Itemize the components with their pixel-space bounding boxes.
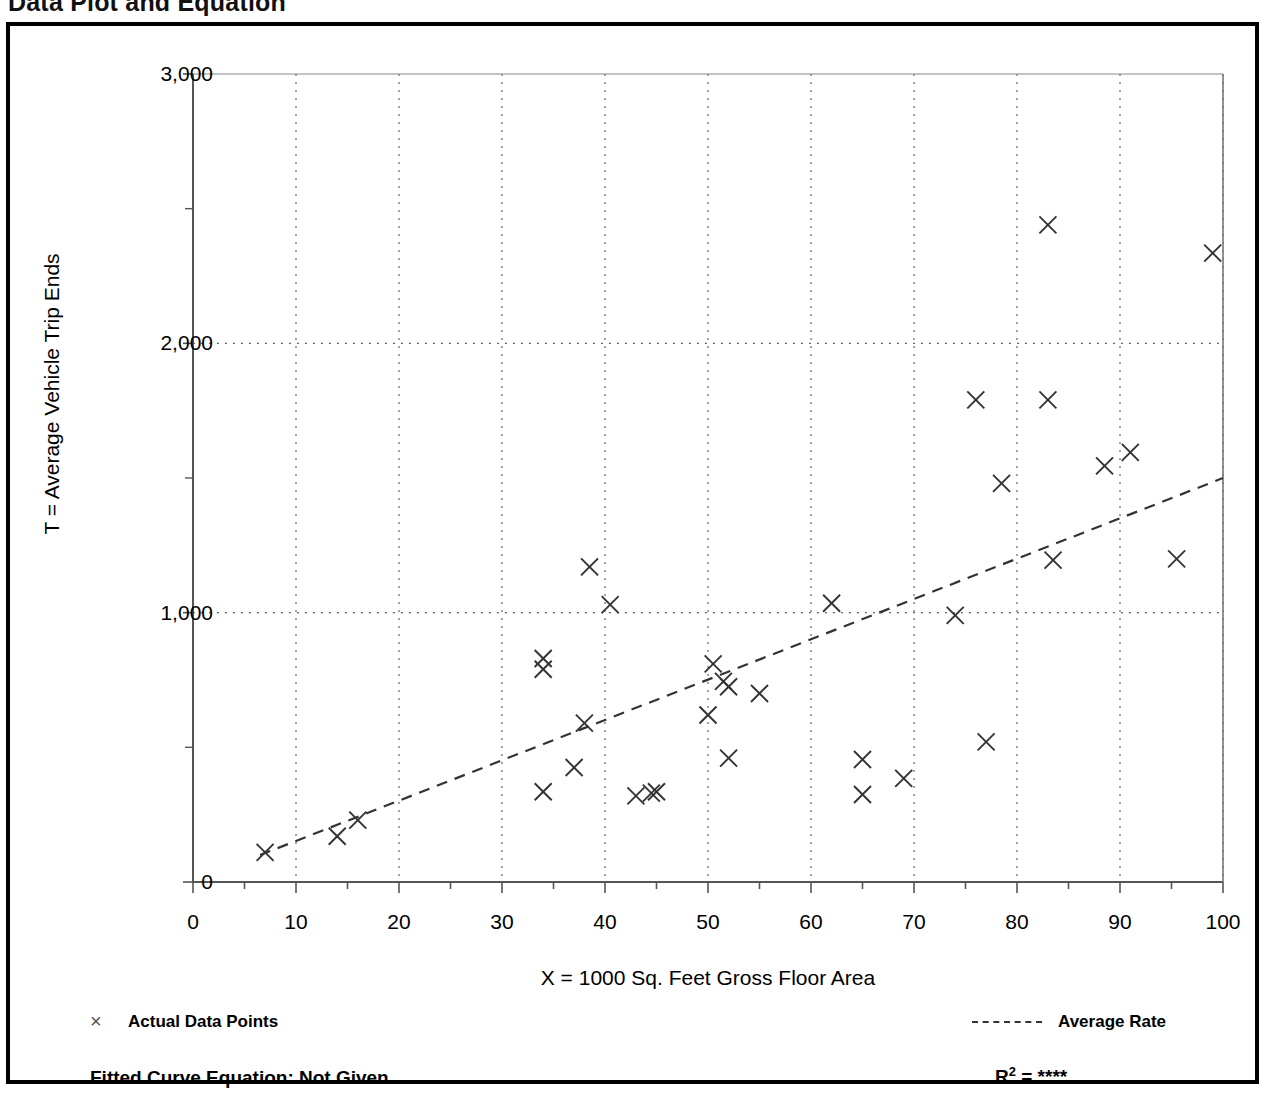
average-rate-line-icon — [972, 1021, 1042, 1023]
chart-legend: × Actual Data Points Average Rate Fitted… — [10, 26, 1255, 1080]
r2-exponent: 2 — [1009, 1064, 1016, 1079]
legend-label-average-rate: Average Rate — [1058, 1012, 1166, 1032]
fitted-curve-equation: Fitted Curve Equation: Not Given — [90, 1067, 389, 1089]
data-point-marker-icon: × — [90, 1011, 102, 1031]
r-squared-value: R2 = **** — [995, 1064, 1067, 1088]
chart-frame: T = Average Vehicle Trip Ends X = 1000 S… — [6, 22, 1259, 1084]
chart-page: Data Plot and Equation T = Average Vehic… — [0, 0, 1269, 1100]
legend-label-data-points: Actual Data Points — [128, 1012, 278, 1032]
r2-number: = **** — [1021, 1066, 1067, 1087]
page-title: Data Plot and Equation — [8, 0, 286, 17]
r2-prefix: R — [995, 1066, 1009, 1087]
